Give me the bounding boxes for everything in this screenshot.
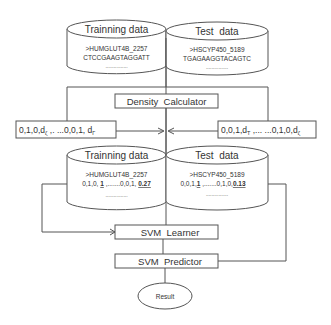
density-calculator: Density Calculator — [115, 94, 218, 108]
sequence-id: >HUMGLUT4B_2257 — [86, 171, 148, 179]
sequence-bases: CTCCGAAGTAGGATT — [83, 54, 150, 61]
sequence-id: >HUMGLUT4B_2257 — [86, 45, 148, 53]
feature-vector-values: 0,0,1,1 ,.......0,1,0,0.13 — [180, 180, 245, 187]
top-test-database: Test data >HSCYP450_5189 TGAGAAGGTACAGTC… — [166, 22, 268, 75]
db-title: Test data — [195, 150, 239, 161]
svm-learner: SVM Learner — [115, 225, 218, 239]
result-node: Result — [138, 283, 192, 309]
test-feature-vector: 0,0,1,dT ,... ...0,1,0,dζ — [218, 121, 316, 138]
feature-vector-values: 0,1,0, 1 ,.......0,0,1, 0.27 — [82, 180, 151, 187]
db-title: Test data — [195, 26, 239, 37]
db-title: Trainning data — [85, 24, 149, 35]
more-ellipsis: ................ — [105, 63, 127, 69]
result-label: Result — [156, 293, 175, 300]
training-feature-vector: 0,1,0,dζ ,. ...0,0,1, dΓ — [16, 121, 116, 138]
db-title: Trainning data — [85, 150, 149, 161]
more-ellipsis: ................ — [206, 64, 228, 70]
density-calculator-label: Density Calculator — [127, 96, 207, 107]
svm-predictor-label: SVM Predictor — [138, 256, 202, 267]
svm-learner-label: SVM Learner — [141, 227, 200, 238]
more-ellipsis: ................ — [206, 191, 228, 197]
more-ellipsis: ................ — [105, 192, 127, 198]
sequence-id: >HSCYP450_5189 — [189, 46, 244, 54]
top-training-database: Trainning data >HUMGLUT4B_2257 CTCCGAAGT… — [67, 20, 166, 74]
bottom-test-database: Test data >HSCYP450_5189 0,0,1,1 ,......… — [166, 146, 268, 210]
sequence-bases: TGAGAAGGTACAGTC — [183, 55, 251, 62]
svm-pipeline-diagram: Trainning data >HUMGLUT4B_2257 CTCCGAAGT… — [0, 0, 331, 325]
sequence-id: >HSCYP450_5189 — [189, 171, 244, 179]
bottom-training-database: Trainning data >HUMGLUT4B_2257 0,1,0, 1 … — [67, 146, 166, 210]
svm-predictor: SVM Predictor — [115, 254, 218, 268]
